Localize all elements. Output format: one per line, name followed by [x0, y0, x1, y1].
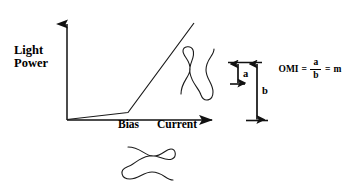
bias-label: Bias: [118, 118, 139, 130]
omi-formula: OMI = a b = m: [277, 58, 343, 80]
b-annotation-label: b: [262, 85, 268, 96]
omi-fraction-denominator: b: [311, 71, 320, 81]
omi-formula-result: m: [332, 64, 343, 74]
y-axis-label: Light Power: [14, 44, 48, 70]
omi-formula-equals: =: [300, 64, 308, 74]
omi-fraction: a b: [310, 58, 321, 80]
current-axis-label: Current: [157, 118, 197, 130]
omi-diagram-figure: Light Power Bias Current a b OMI = a b =…: [0, 0, 364, 192]
y-axis-label-line2: Power: [14, 57, 48, 70]
input-sine-wave: [122, 147, 175, 180]
omi-formula-equals-2: =: [323, 64, 331, 74]
omi-formula-name: OMI: [277, 64, 300, 74]
omi-fraction-numerator: a: [312, 58, 321, 68]
diagram-vector-layer: [0, 0, 364, 192]
li-curve: [67, 23, 194, 120]
output-sine-wave: [181, 47, 214, 100]
a-annotation-label: a: [243, 68, 248, 79]
